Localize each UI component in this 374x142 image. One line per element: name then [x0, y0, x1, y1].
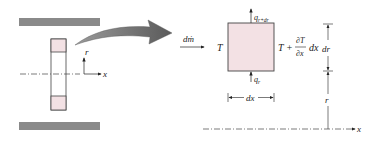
- mass-flow-label: dṁ: [183, 34, 195, 44]
- dr-label: dr: [322, 44, 331, 54]
- pipe-wall-top: [19, 18, 100, 26]
- r-axis-label: r: [85, 47, 89, 57]
- x-axis-label: x: [102, 69, 107, 79]
- q-top-label: qr+dr: [254, 13, 270, 23]
- differential-element: [228, 23, 274, 71]
- ring-element: [51, 39, 66, 110]
- right-temperature-T: T +: [278, 42, 293, 53]
- pipe-wall-bottom: [19, 122, 100, 130]
- heat-flow-diagram: r x dṁ T T + ∂T ∂x dx qr+dr qr dx dr r x: [0, 0, 374, 142]
- left-temperature: T: [217, 42, 224, 53]
- x-axis-label-right: x: [356, 124, 361, 134]
- right-temperature-dx: dx: [309, 42, 319, 53]
- r-dim-label: r: [325, 95, 329, 105]
- right-temperature-numerator: ∂T: [296, 36, 305, 45]
- q-bottom-label: qr: [254, 75, 261, 85]
- right-temperature-denominator: ∂x: [296, 49, 304, 58]
- dx-label: dx: [246, 93, 255, 103]
